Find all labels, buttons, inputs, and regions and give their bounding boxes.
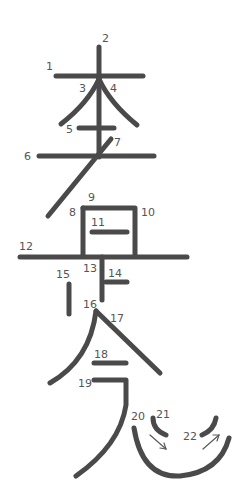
stroke-7: [48, 139, 111, 216]
stroke-4: [99, 79, 137, 125]
label-18: 18: [94, 348, 108, 361]
label-19: 19: [78, 377, 92, 390]
label-11: 11: [91, 216, 105, 229]
label-9: 9: [88, 191, 95, 204]
label-7: 7: [114, 136, 121, 149]
stroke-19: [76, 380, 126, 476]
label-21: 21: [156, 408, 170, 421]
label-13: 13: [83, 262, 97, 275]
label-6: 6: [24, 150, 31, 163]
label-8: 8: [69, 206, 76, 219]
arrow-icon-20: [150, 435, 166, 449]
label-20: 20: [131, 410, 145, 423]
label-2: 2: [102, 32, 109, 45]
label-14: 14: [108, 267, 122, 280]
label-16: 16: [83, 298, 97, 311]
stroke-16: [50, 311, 96, 383]
label-10: 10: [141, 206, 155, 219]
label-4: 4: [110, 82, 117, 95]
stroke-22: [202, 418, 216, 435]
label-3: 3: [79, 82, 86, 95]
arrow-icon-22: [203, 435, 219, 449]
label-15: 15: [56, 268, 70, 281]
label-1: 1: [46, 60, 53, 73]
label-17: 17: [110, 312, 124, 325]
label-22: 22: [183, 430, 197, 443]
stroke-order-diagram: 1 2 3 4 5 6 7 8 9 10 11 12 13 14 15 16 1…: [0, 0, 247, 504]
label-5: 5: [66, 123, 73, 136]
label-12: 12: [19, 240, 33, 253]
